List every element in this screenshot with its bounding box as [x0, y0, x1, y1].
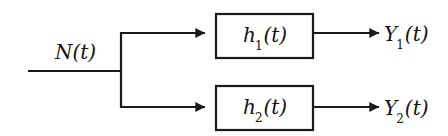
output-2-subscript: 2 [396, 112, 404, 126]
output-1-label: Y1(t) [384, 24, 429, 48]
block-2-subscript: 2 [255, 111, 263, 125]
block-1-base: h [243, 23, 256, 47]
input-signal-label: N(t) [55, 42, 96, 62]
output-1-arg: (t) [405, 22, 429, 46]
block-1-label: h1(t) [243, 25, 287, 49]
block-diagram: N(t) h1(t) h2(t) Y1(t) Y2(t) [0, 0, 448, 136]
block-2-base: h [243, 95, 256, 119]
input-signal-base: N [55, 40, 73, 64]
diagram-canvas [0, 0, 448, 136]
input-signal-arg: (t) [73, 40, 97, 64]
output-2-arg: (t) [405, 96, 429, 120]
output-2-label: Y2(t) [384, 98, 429, 122]
block-1-arg: (t) [264, 23, 288, 47]
block-2-label: h2(t) [243, 97, 287, 121]
output-1-subscript: 1 [396, 38, 404, 52]
block-1-subscript: 1 [255, 39, 263, 53]
block-2-arg: (t) [264, 95, 288, 119]
